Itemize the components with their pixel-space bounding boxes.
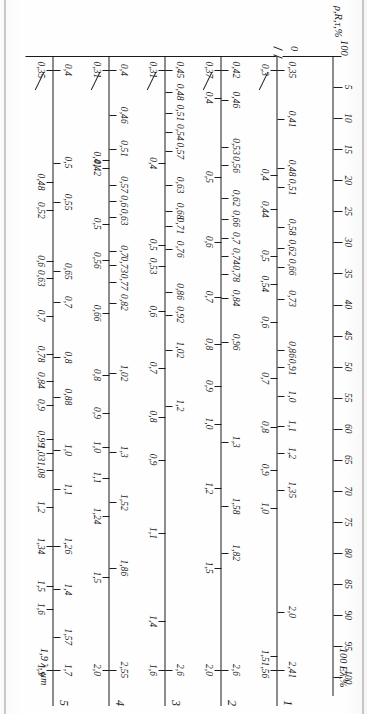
scale-2-tick-lower: [214, 70, 221, 71]
scale-2-tick-lower: [214, 568, 221, 569]
percent-tick-label: 15: [342, 144, 352, 154]
scale-4-label-lower: 1,0: [91, 441, 101, 453]
scale-3-label-lower: 0,31: [147, 62, 157, 79]
scale-4-tick-upper: [109, 282, 116, 283]
scale-3-tick-upper: [165, 70, 172, 71]
percent-tick-label: 75: [342, 517, 352, 527]
scale-4-label-upper: 0,63: [118, 209, 128, 226]
scale-1-label-lower: 1,5: [259, 650, 269, 662]
scale-5-label-upper: 1,26: [62, 537, 72, 554]
scale-5-label-upper: 0,7: [62, 296, 72, 308]
scale-3-label-lower: 0,7: [147, 362, 157, 374]
scale-5-tick-lower: [46, 70, 53, 71]
scale-4-tick-upper: [109, 201, 116, 202]
scale-1-tick-lower: [270, 209, 277, 210]
scale-3-tick-lower: [158, 163, 165, 164]
scale-4-tick-lower: [102, 70, 109, 71]
scale-3-label-lower: 1,1: [147, 527, 157, 539]
scale-4-tick-upper: [109, 70, 116, 71]
scale-1-label-lower: 1,56: [259, 662, 269, 679]
scale-5-label-upper: 0,5: [62, 157, 72, 169]
scale-2-label-upper: 0,42: [230, 62, 240, 79]
scale-1-label-upper: 0,35: [286, 62, 296, 79]
scale-1-label-lower: 0,5: [259, 250, 269, 262]
scale-5-label-lower: 0,7: [35, 310, 45, 322]
percent-tick-label: 55: [342, 393, 352, 403]
percent-tick: [333, 149, 342, 150]
scale-2-label-upper: 0,62: [230, 190, 240, 207]
scale-4-label-lower: 0,56: [91, 252, 101, 269]
scale-4-tick-upper: [109, 670, 116, 671]
percent-tick-label: 25: [342, 207, 352, 217]
scale-4-tick-upper: [109, 502, 116, 503]
scale-5-tick-lower: [46, 210, 53, 211]
scale-5-label-upper: 0,55: [62, 194, 72, 211]
scale-2-tick-upper: [221, 274, 228, 275]
scale-3-tick-lower: [158, 460, 165, 461]
percent-tick-label: 60: [342, 424, 352, 434]
scale-2-tick-upper: [221, 298, 228, 299]
scale-5-tick-upper: [53, 489, 60, 490]
scale-2-label-upper: 2,6: [230, 664, 240, 676]
scale-4-label-upper: 0,6: [118, 195, 128, 207]
scale-1-label-lower: 0,3: [259, 64, 269, 76]
scale-3-label-upper: 0,92: [174, 306, 184, 323]
scale-1-label-upper: 0,73: [286, 290, 296, 307]
scale-2-label-upper: 0,84: [230, 290, 240, 307]
scale-3-tick-lower: [158, 70, 165, 71]
scale-3-tick-lower: [158, 533, 165, 534]
scale-2-label-upper: 0,56: [230, 156, 240, 173]
scale-1-tick-upper: [277, 350, 284, 351]
scale-4-tick-lower: [102, 447, 109, 448]
scale-5-label-lower: 0,9: [35, 399, 45, 411]
scale-2-label-upper: 1,3: [230, 436, 240, 448]
scale-5-label-lower: 1,6: [35, 603, 45, 615]
scale-2-tick-lower: [214, 386, 221, 387]
scale-5-tick-upper: [53, 202, 60, 203]
scale-4-label-lower: 0,8: [91, 369, 101, 381]
scale-4-tick-upper: [109, 185, 116, 186]
percent-tick: [333, 398, 342, 399]
scale-1-tick-upper: [277, 119, 284, 120]
scale-5-tick-lower: [46, 261, 53, 262]
scale-1-label-upper: 2,0: [286, 606, 296, 618]
scale-1-tick-upper: [277, 490, 284, 491]
percent-axis-line: [332, 56, 333, 696]
scale-1-label-upper: 1,35: [286, 481, 296, 498]
scale-2-tick-upper: [221, 147, 228, 148]
scale-5-tick-lower: [46, 278, 53, 279]
scale-2-label-lower: 0,4: [203, 92, 213, 104]
scale-1-label-upper: 1,1: [286, 420, 296, 432]
scale-3-tick-lower: [158, 670, 165, 671]
scale-5-label-upper: 1,0: [62, 444, 72, 456]
scale-3-label-upper: 0,54: [174, 124, 184, 141]
scale-4-line: [108, 56, 109, 706]
scale-2-label-lower: 0,37: [203, 62, 213, 79]
scale-4-label-lower: 0,66: [91, 305, 101, 322]
scale-5-tick-upper: [53, 302, 60, 303]
scale-5-tick-upper: [53, 589, 60, 590]
percent-tick: [333, 242, 342, 243]
scale-3-tick-upper: [165, 249, 172, 250]
scale-2-label-lower: 0,7: [203, 291, 213, 303]
scale-2-tick-upper: [221, 70, 228, 71]
scale-1-label-lower: 0,54: [259, 276, 269, 293]
scale-3-tick-upper: [165, 151, 172, 152]
scale-3-label-upper: 2,6: [174, 664, 184, 676]
scale-5-tick-lower: [46, 470, 53, 471]
scale-5-label-upper: 0,8: [62, 351, 72, 363]
percent-tick-label: 20: [342, 175, 352, 185]
scale-2-label-upper: 0,7: [230, 232, 240, 244]
scale-3-tick-upper: [165, 185, 172, 186]
scale-4-tick-upper: [109, 149, 116, 150]
scale-1-tick-lower: [270, 256, 277, 257]
percent-tick: [333, 429, 342, 430]
percent-axis-title: ρ,R,τ,%: [332, 6, 343, 38]
scale-1-label-upper: 0,91: [286, 359, 296, 376]
scale-1-tick-lower: [270, 378, 277, 379]
percent-tick-label: 30: [342, 238, 352, 248]
percent-tick: [333, 460, 342, 461]
scale-1-tick-upper: [277, 367, 284, 368]
percent-tick-label: 85: [342, 579, 352, 589]
scale-5-label-lower: 1,34: [35, 538, 45, 555]
